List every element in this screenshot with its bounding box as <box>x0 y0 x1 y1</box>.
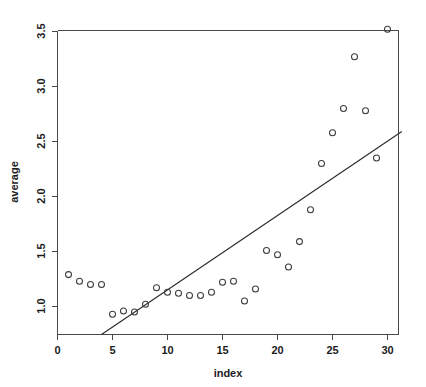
y-tick-label: 2.0 <box>35 188 47 203</box>
plot-canvas: 1.0 1.5 2.0 2.5 3.0 3.5 average <box>0 0 426 387</box>
x-tick-label: 5 <box>109 344 115 356</box>
x-tick-label: 15 <box>216 344 228 356</box>
y-tick-label: 3.5 <box>35 23 47 38</box>
y-tick-label: 1.5 <box>35 243 47 258</box>
x-tick-label: 20 <box>271 344 283 356</box>
y-axis-title: average <box>8 161 20 203</box>
scatter-plot-figure: 1.0 1.5 2.0 2.5 3.0 3.5 average <box>0 0 426 387</box>
x-tick-label: 10 <box>161 344 173 356</box>
x-tick-label: 30 <box>381 344 393 356</box>
x-tick-label: 25 <box>326 344 338 356</box>
y-tick-label: 2.5 <box>35 133 47 148</box>
x-tick-label: 0 <box>54 344 60 356</box>
plot-background <box>0 0 426 387</box>
x-axis-title: index <box>214 367 244 379</box>
y-tick-label: 3.0 <box>35 78 47 93</box>
y-tick-label: 1.0 <box>35 298 47 313</box>
